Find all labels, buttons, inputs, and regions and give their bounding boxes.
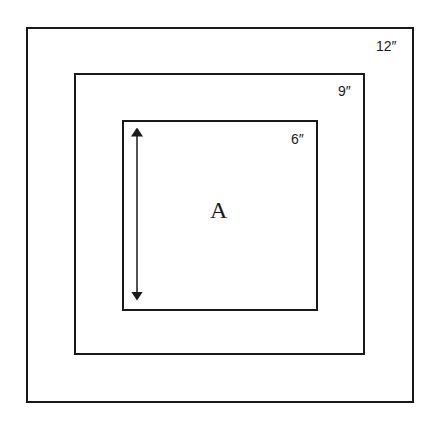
middle-square-label: 9″ [338,83,351,99]
center-label: A [210,197,227,224]
outer-square-label: 12″ [376,38,397,54]
inner-square-label: 6″ [291,131,304,147]
